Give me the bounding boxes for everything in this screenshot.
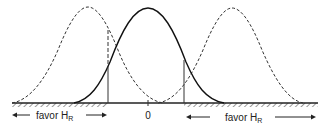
right-arrowhead-icon	[311, 115, 316, 120]
left-alternative-curve	[12, 7, 163, 103]
zero-label: 0	[145, 110, 151, 121]
left-arrowhead-icon	[186, 115, 191, 120]
right-alternative-curve	[158, 8, 303, 103]
diagram-canvas: 0 favor HR favor HR	[0, 0, 324, 129]
left-favor-label: favor HR	[36, 110, 73, 122]
null-distribution-curve	[74, 8, 224, 103]
right-favor-label: favor HR	[225, 112, 262, 124]
left-arrowhead-icon	[12, 113, 17, 118]
right-arrowhead-icon	[102, 113, 107, 118]
